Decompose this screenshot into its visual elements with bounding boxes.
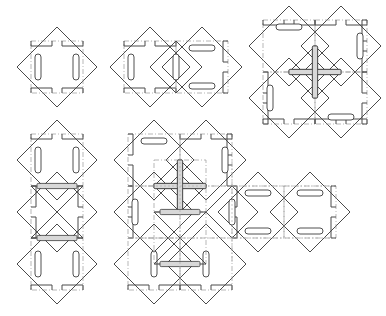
slot-left xyxy=(267,85,273,111)
slot-left xyxy=(128,54,134,80)
tile-mid[interactable] xyxy=(17,172,97,252)
slot-right xyxy=(222,147,228,173)
assembly-diagram-canvas xyxy=(0,0,386,316)
panel-two-tile-pair[interactable] xyxy=(110,27,242,107)
tile-outline xyxy=(17,27,97,107)
cross-band-vertical xyxy=(312,46,317,98)
slot-pair-vertical xyxy=(35,54,79,80)
slot-right xyxy=(357,33,363,59)
tile-a[interactable] xyxy=(17,27,97,107)
panel-full-assembly[interactable] xyxy=(114,120,350,304)
slot-pair-vertical xyxy=(35,147,79,173)
slot-pair-horizontal xyxy=(297,190,323,234)
slot-left xyxy=(132,199,138,225)
slot-top xyxy=(141,138,167,144)
slot-top xyxy=(276,24,302,30)
slot-bottom xyxy=(328,114,354,120)
tile-far-east[interactable] xyxy=(270,172,350,252)
panel-single-tile[interactable] xyxy=(17,27,97,107)
core-slot xyxy=(173,54,179,80)
panel-vertical-stack[interactable] xyxy=(17,120,97,304)
pinwheel-motif xyxy=(289,46,341,98)
slot-top xyxy=(245,190,271,196)
tile-outline xyxy=(270,172,350,252)
bowtie-x-motif xyxy=(31,183,83,240)
slot-bottom xyxy=(245,228,271,234)
panel-four-tile-pinwheel[interactable] xyxy=(249,6,381,138)
slot-pair-vertical xyxy=(35,251,79,277)
